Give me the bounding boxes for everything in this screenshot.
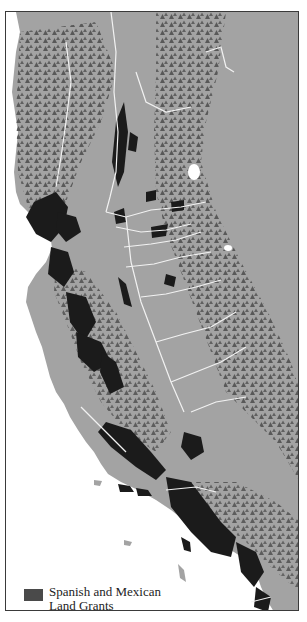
- map-frame: [5, 11, 299, 611]
- map-legend: Spanish and Mexican Land Grants: [24, 585, 161, 613]
- legend-label-line2: Land Grants: [49, 599, 161, 613]
- legend-label: Spanish and Mexican Land Grants: [49, 585, 161, 613]
- legend-label-line1: Spanish and Mexican: [49, 585, 161, 599]
- mono-lake: [224, 245, 232, 251]
- map-canvas: [6, 12, 299, 611]
- land-grant-swatch: [24, 589, 43, 601]
- lake-tahoe: [188, 164, 200, 180]
